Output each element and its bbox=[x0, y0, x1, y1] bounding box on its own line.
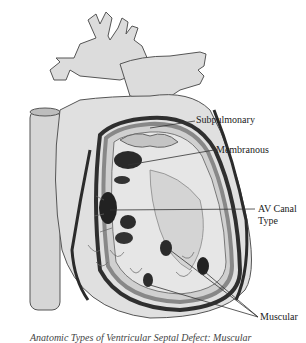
label-muscular: Muscular bbox=[260, 311, 298, 322]
label-av-canal-type: Type bbox=[258, 215, 278, 226]
muscular-defect-3 bbox=[143, 273, 153, 287]
label-av-canal: AV Canal bbox=[258, 203, 297, 214]
av-canal-defect bbox=[99, 192, 117, 224]
label-membranous: Membranous bbox=[216, 144, 269, 155]
membranous-defect bbox=[114, 176, 130, 184]
subpulmonary-defect bbox=[114, 151, 142, 169]
muscular-defect-1 bbox=[160, 240, 172, 256]
vena-cava bbox=[30, 110, 60, 310]
figure-caption: Anatomic Types of Ventricular Septal Def… bbox=[30, 332, 251, 343]
label-subpulmonary: Subpulmonary bbox=[196, 114, 255, 125]
